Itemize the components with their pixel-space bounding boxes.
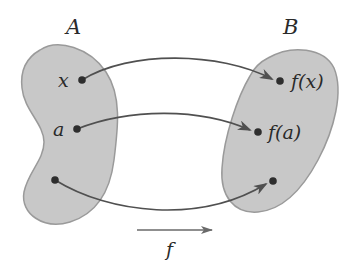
point-a-label: a [53, 118, 64, 140]
point-fx [276, 77, 284, 85]
set-b-label: B [282, 15, 298, 39]
set-b: B [222, 15, 338, 212]
mapping-arrow-x-to-fx [82, 58, 272, 80]
set-a-blob [22, 45, 118, 224]
point-fa-label: f(a) [266, 121, 301, 143]
set-a-label: A [64, 15, 81, 39]
point-codomain-unlabeled [269, 177, 277, 185]
point-fx-label: f(x) [289, 70, 324, 92]
point-fa [254, 128, 262, 136]
point-x [78, 76, 86, 84]
set-a: A [22, 15, 118, 224]
point-a [73, 125, 81, 133]
function-label: f [164, 238, 176, 260]
point-domain-unlabeled [51, 176, 59, 184]
function-mapping-diagram: A B x a f(x) f(a) f [0, 0, 355, 273]
point-x-label: x [58, 69, 69, 91]
